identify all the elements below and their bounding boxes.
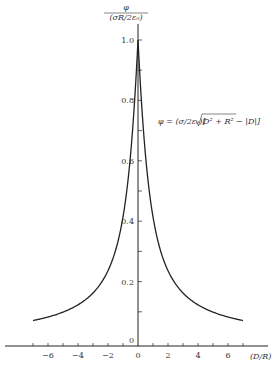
y-tick-label: 0.8 bbox=[121, 96, 134, 105]
svg-text:D² + R²: D² + R² bbox=[202, 117, 234, 126]
x-tick-label: 0 bbox=[135, 351, 140, 360]
x-tick-label: 2 bbox=[165, 351, 170, 360]
y-tick-label: 0 bbox=[129, 336, 134, 345]
y-tick-label: 0.6 bbox=[121, 157, 134, 166]
svg-text:− |D|]: − |D|] bbox=[236, 117, 261, 126]
x-axis-label: (D/R) bbox=[250, 352, 271, 361]
y-tick-label: 0.4 bbox=[121, 217, 134, 226]
formula-annotation: φ = (σ/2ε₀)[ D² + R² − |D|] bbox=[158, 114, 261, 126]
x-tick-label: −4 bbox=[72, 351, 84, 360]
x-tick-label: 6 bbox=[225, 351, 230, 360]
chart-plot-area: −6−4−2024600.20.40.60.81.0 φ (σR/2ε₀) (D… bbox=[0, 0, 280, 371]
y-tick-label: 1.0 bbox=[121, 36, 134, 45]
y-axis-label-numerator: φ bbox=[123, 3, 129, 12]
y-axis-label-denominator: (σR/2ε₀) bbox=[109, 13, 142, 22]
x-tick-label: −2 bbox=[102, 351, 114, 360]
x-tick-label: 4 bbox=[195, 351, 200, 360]
y-tick-label: 0.2 bbox=[121, 278, 134, 287]
x-tick-label: −6 bbox=[42, 351, 54, 360]
